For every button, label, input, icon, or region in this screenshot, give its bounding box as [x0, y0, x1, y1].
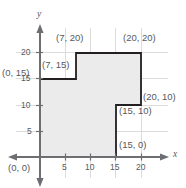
vertex-label-15-10: (15, 10) — [119, 106, 152, 116]
vertex-label-20-10: (20, 10) — [143, 92, 176, 102]
y-tick-label-5: 5 — [27, 127, 32, 136]
vertex-label-0-15: (0, 15) — [2, 68, 29, 78]
vertex-label-7-15: (7, 15) — [42, 60, 69, 70]
vertex-label-7-20: (7, 20) — [56, 33, 83, 43]
x-tick-label-10: 10 — [85, 163, 94, 172]
vertex-label-0-0: (0, 0) — [8, 163, 30, 173]
x-tick-label-15: 15 — [110, 163, 119, 172]
y-tick-label-20: 20 — [21, 48, 30, 57]
x-axis-label: x — [173, 150, 177, 160]
vertex-label-20-20: (20, 20) — [123, 33, 156, 43]
vertex-label-15-0: (15, 0) — [119, 140, 146, 150]
x-tick-label-5: 5 — [62, 163, 67, 172]
x-tick-label-20: 20 — [136, 163, 145, 172]
y-tick-label-10: 10 — [21, 101, 30, 110]
y-axis-label: y — [37, 10, 41, 20]
coordinate-plane-figure: y x 20 15 10 5 5 10 15 20 (7, 20) (20, 2… — [0, 0, 186, 188]
